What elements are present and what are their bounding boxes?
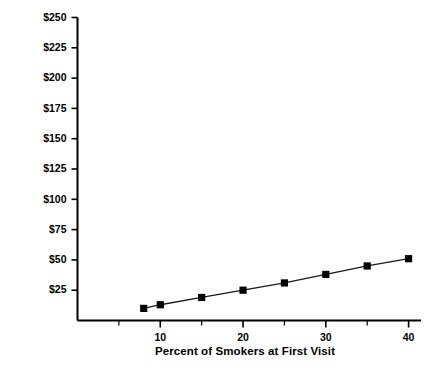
y-tick-label: $50: [49, 253, 67, 265]
data-point: [405, 255, 412, 262]
y-tick-label: $200: [43, 71, 67, 83]
data-point: [157, 301, 164, 308]
y-tick-label: $250: [43, 11, 67, 23]
data-point: [322, 271, 329, 278]
x-tick-label: 10: [154, 331, 166, 343]
y-tick-label: $175: [43, 102, 67, 114]
data-point: [140, 305, 147, 312]
x-tick-label: 20: [237, 331, 249, 343]
y-tick-label: $25: [49, 283, 67, 295]
y-tick-label: $100: [43, 193, 67, 205]
y-tick-label: $75: [49, 223, 67, 235]
data-point: [364, 262, 371, 269]
y-axis-ticks: $25$50$75$100$125$150$175$200$225$250: [43, 11, 77, 296]
data-point: [239, 287, 246, 294]
data-point: [281, 279, 288, 286]
chart-figure: Break-Even Cost $25$50$75$100$125$150$17…: [0, 0, 444, 372]
series-markers: [140, 255, 412, 312]
y-tick-label: $225: [43, 41, 67, 53]
plot-area: $25$50$75$100$125$150$175$200$225$250 10…: [0, 0, 444, 372]
y-tick-label: $150: [43, 132, 67, 144]
x-tick-label: 40: [403, 331, 415, 343]
x-axis-title: Percent of Smokers at First Visit: [60, 345, 430, 357]
x-axis-ticks: 10203040: [119, 321, 415, 343]
data-point: [198, 294, 205, 301]
x-tick-label: 30: [320, 331, 332, 343]
y-tick-label: $125: [43, 162, 67, 174]
